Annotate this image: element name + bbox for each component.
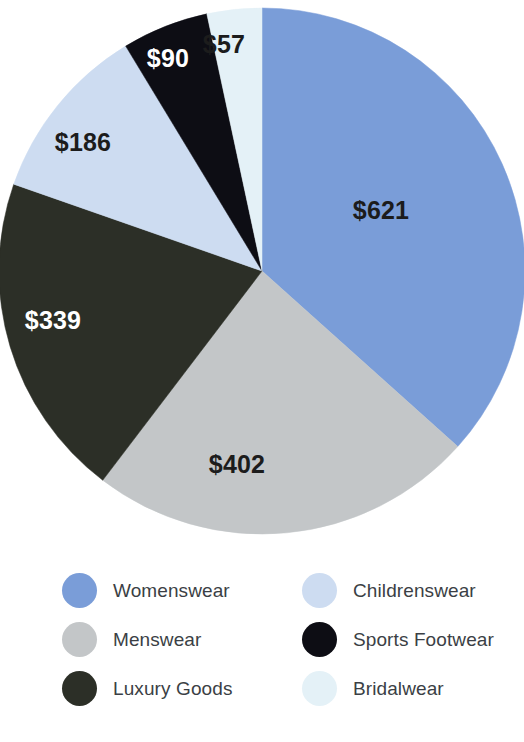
pie-slice-value-label: $90 xyxy=(147,44,189,72)
pie-chart-figure: $621$402$339$186$90$57 WomenswearChildre… xyxy=(0,0,524,742)
pie-chart-svg: $621$402$339$186$90$57 xyxy=(0,0,524,548)
pie-chart-plot-area: $621$402$339$186$90$57 xyxy=(0,0,524,548)
legend-swatch-circle-icon xyxy=(62,671,97,706)
legend-item-label: Menswear xyxy=(113,629,201,651)
legend-item-label: Womenswear xyxy=(113,580,230,602)
legend-item-label: Sports Footwear xyxy=(353,629,494,651)
pie-slice-value-label: $186 xyxy=(55,128,111,156)
legend-item[interactable]: Childrenswear xyxy=(302,566,524,615)
legend-swatch-circle-icon xyxy=(302,671,337,706)
pie-slice-value-label: $402 xyxy=(209,450,265,478)
legend-item[interactable]: Sports Footwear xyxy=(302,615,524,664)
legend-item-label: Childrenswear xyxy=(353,580,476,602)
legend-item-label: Luxury Goods xyxy=(113,678,233,700)
legend-swatch-circle-icon xyxy=(302,573,337,608)
pie-slice-value-label: $339 xyxy=(25,306,81,334)
legend-grid: WomenswearChildrenswearMenswearSports Fo… xyxy=(62,566,510,713)
pie-slice-value-label: $621 xyxy=(353,196,409,224)
chart-legend: WomenswearChildrenswearMenswearSports Fo… xyxy=(0,556,524,742)
legend-item[interactable]: Luxury Goods xyxy=(62,664,294,713)
legend-item-label: Bridalwear xyxy=(353,678,444,700)
legend-swatch-circle-icon xyxy=(62,573,97,608)
legend-item[interactable]: Womenswear xyxy=(62,566,294,615)
legend-item[interactable]: Menswear xyxy=(62,615,294,664)
legend-item[interactable]: Bridalwear xyxy=(302,664,524,713)
pie-slice-value-label: $57 xyxy=(203,30,245,58)
legend-swatch-circle-icon xyxy=(62,622,97,657)
legend-swatch-circle-icon xyxy=(302,622,337,657)
